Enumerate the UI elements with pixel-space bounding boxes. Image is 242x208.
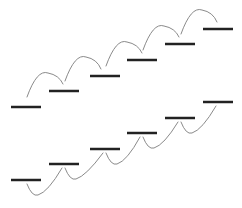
bottom-arc-3 [106, 137, 140, 164]
bottom-staircase [11, 102, 233, 195]
staircase-diagram [0, 0, 242, 208]
top-arc-5 [181, 10, 217, 35]
bottom-arc-5 [181, 106, 216, 133]
top-arc-3 [106, 42, 142, 67]
bottom-arc-4 [143, 122, 178, 148]
bottom-arc-1 [27, 168, 62, 195]
bottom-arc-2 [65, 153, 103, 179]
top-arc-1 [27, 73, 63, 98]
top-arc-4 [143, 26, 179, 51]
top-arc-2 [65, 57, 101, 82]
top-staircase [11, 10, 233, 108]
